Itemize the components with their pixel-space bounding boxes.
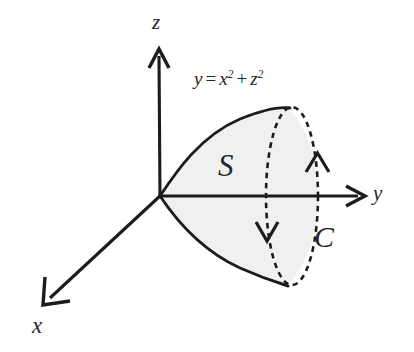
diagram-svg xyxy=(0,0,414,352)
axis-label-x: x xyxy=(32,314,42,337)
surface-label-s: S xyxy=(218,150,234,181)
equation-term1-base: x xyxy=(219,68,227,89)
equation-equals: = xyxy=(202,68,219,89)
surface-equation: y=x2+z2 xyxy=(194,69,264,88)
axis-label-z: z xyxy=(152,12,160,33)
equation-term2-base: z xyxy=(250,68,257,89)
axis-label-y: y xyxy=(373,183,382,204)
x-axis-line xyxy=(50,196,160,298)
z-axis-line xyxy=(159,56,160,198)
figure-canvas: z y x S C y=x2+z2 xyxy=(0,0,414,352)
equation-term2-exponent: 2 xyxy=(258,68,264,81)
curve-label-c: C xyxy=(314,222,334,252)
equation-plus: + xyxy=(233,68,250,89)
